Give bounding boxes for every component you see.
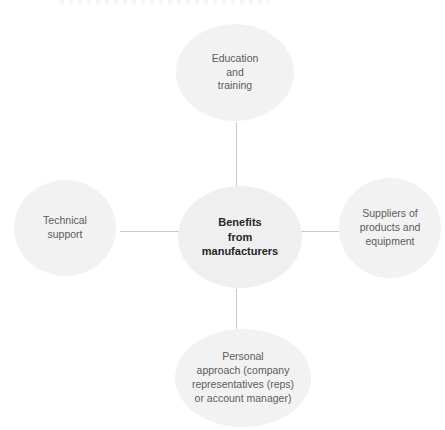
cropped-text-remnant (60, 0, 270, 4)
node-personal-approach: Personal approach (company representativ… (175, 329, 311, 427)
hub-and-spoke-diagram: Education and training Technical support… (0, 0, 445, 430)
node-benefits-from-manufacturers: Benefits from manufacturers (178, 186, 302, 288)
node-label-suppliers-of-products-and-equipment: Suppliers of products and equipment (352, 207, 429, 249)
connector-center-to-left (120, 231, 180, 232)
node-label-personal-approach: Personal approach (company representativ… (184, 350, 302, 405)
connector-center-to-bottom (236, 289, 237, 330)
node-suppliers-of-products-and-equipment: Suppliers of products and equipment (339, 178, 441, 278)
node-education-and-training: Education and training (176, 24, 294, 121)
connector-center-to-top (236, 122, 237, 186)
node-label-education-and-training: Education and training (204, 52, 267, 94)
node-label-benefits-from-manufacturers: Benefits from manufacturers (194, 215, 286, 259)
node-technical-support: Technical support (14, 180, 116, 276)
node-label-technical-support: Technical support (35, 214, 95, 242)
